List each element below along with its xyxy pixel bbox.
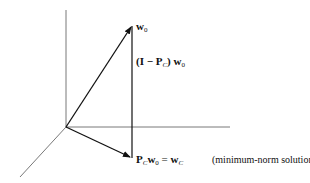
projection-label: PCw0 = wC (136, 153, 184, 167)
projection-vector-arrow (66, 127, 130, 157)
depth-axis (20, 127, 66, 177)
minimum-norm-annotation: (minimum-norm solution) (212, 154, 310, 166)
w0-vector-arrow (66, 27, 131, 127)
projection-diagram: w0 (I − PC) w0 PCw0 = wC (minimum-norm s… (0, 0, 310, 183)
w0-label: w0 (136, 20, 148, 34)
residual-label: (I − PC) w0 (136, 55, 185, 69)
